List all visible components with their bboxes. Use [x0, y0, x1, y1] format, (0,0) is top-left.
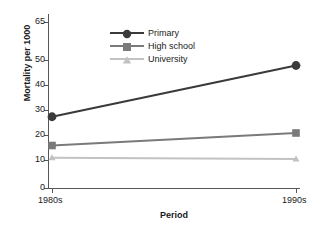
legend-swatch-high-school [110, 40, 144, 52]
triangle-icon [122, 55, 132, 65]
legend-label-primary: Primary [148, 28, 179, 38]
series-marker-high-school-1980s [48, 142, 56, 150]
series-marker-primary-1990s [292, 61, 301, 70]
circle-icon [122, 29, 132, 39]
series-line-university [52, 158, 296, 159]
legend-item-university: University [110, 52, 230, 65]
square-icon [122, 42, 132, 52]
legend-item-primary: Primary [110, 26, 230, 39]
legend-swatch-university [110, 53, 144, 65]
y-tick-label: 50 [25, 54, 45, 64]
x-tick-label-1990s: 1990s [282, 195, 307, 205]
series-marker-high-school-1990s [292, 129, 300, 137]
series-marker-primary-1980s [48, 112, 57, 121]
mortality-by-education-line-chart: Mortality per 1000 65 50 40 30 20 10 [0, 0, 323, 228]
series-line-high-school [52, 133, 296, 146]
plot-area: 65 50 40 30 20 10 0 1980s 1990s [48, 14, 300, 189]
x-axis-title: Period [46, 210, 302, 220]
series-line-primary [52, 66, 296, 117]
x-tick-label-1980s: 1980s [38, 195, 63, 205]
y-tick-label: 65 [25, 16, 45, 26]
legend-item-high-school: High school [110, 39, 230, 52]
y-tick-label: 40 [25, 79, 45, 89]
chart-legend: Primary High school Univer [110, 26, 230, 65]
legend-swatch-primary [110, 27, 144, 39]
legend-label-university: University [148, 54, 188, 64]
y-tick-label: 10 [25, 154, 45, 164]
y-tick-label: 0 [25, 182, 45, 192]
y-tick-label: 20 [25, 129, 45, 139]
legend-label-high-school: High school [148, 41, 195, 51]
y-tick-label: 30 [25, 104, 45, 114]
